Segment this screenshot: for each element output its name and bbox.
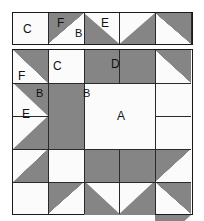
strip-seam-1	[48, 13, 49, 44]
block-seam-h4	[13, 182, 191, 183]
block-seam-v1	[48, 50, 49, 214]
block-seam-v4	[155, 50, 156, 214]
cell-r3c1-hst	[13, 149, 48, 182]
cell-r1c2-c	[48, 50, 84, 83]
block-seam-v3b	[119, 149, 120, 182]
block-seam-h3	[13, 149, 191, 150]
cell-r3c2-light	[48, 149, 84, 182]
block-seam-h1	[13, 83, 191, 84]
cell-r3c5-hst	[155, 149, 191, 182]
strip-seam-5	[191, 13, 192, 44]
cell-r1c1-hst-f	[13, 50, 48, 83]
block-seam-v2	[84, 50, 85, 214]
strip-seam-2	[84, 13, 85, 44]
block-seam-h2	[13, 116, 48, 117]
strip-seam-3	[119, 13, 120, 44]
cell-r2c5-geese	[155, 215, 191, 221]
cell-r1c5-hst	[155, 50, 191, 83]
quilt-block-diagram: C F B E	[0, 0, 204, 221]
block-seam-v3	[119, 50, 120, 83]
cell-r4c4-hst	[155, 182, 191, 214]
cell-r2c2-dark	[48, 83, 84, 149]
strip-cell-c	[13, 13, 48, 44]
strip-cell-hst-right	[155, 13, 191, 44]
block-seam-h2b	[155, 116, 191, 117]
cell-r4c1-light	[13, 182, 48, 214]
strip-seam-4	[155, 13, 156, 44]
block-seam-v3c	[119, 182, 120, 214]
strip-cell-f	[48, 13, 84, 44]
five-patch-block	[12, 49, 193, 215]
cell-r4c2-hst	[48, 182, 84, 214]
border-strip	[12, 12, 193, 45]
cell-r4c5-light	[191, 182, 192, 214]
